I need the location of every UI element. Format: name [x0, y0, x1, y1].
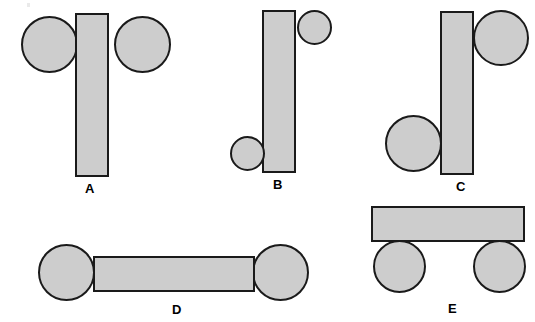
panel-a-left-circle: [21, 16, 78, 73]
panel-c-bar: [440, 11, 474, 175]
panel-e-right-circle: [473, 240, 526, 293]
panel-d-bar: [93, 256, 255, 292]
panel-b-top-right-circle: [297, 10, 332, 45]
panel-b-bar: [262, 10, 296, 173]
panel-e-left-circle: [373, 240, 426, 293]
panel-d-left-circle: [38, 244, 95, 301]
figure-canvas: ABCDE: [0, 0, 535, 322]
panel-a-right-circle: [114, 16, 171, 73]
figure-label-e: E: [448, 302, 457, 315]
panel-b-bottom-left-circle: [230, 136, 265, 171]
panel-c-bottom-left-circle: [385, 115, 442, 172]
panel-c-top-right-circle: [473, 10, 529, 66]
panel-a-bar: [75, 13, 109, 177]
panel-e-bar: [371, 206, 525, 242]
panel-d-right-circle: [252, 244, 309, 301]
